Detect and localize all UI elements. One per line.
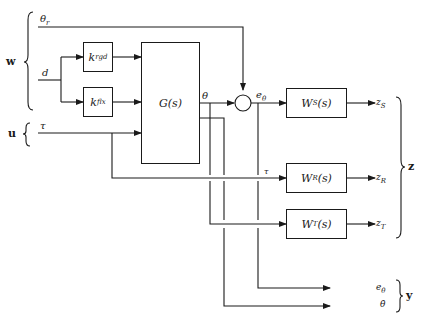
group-label-z: z bbox=[408, 162, 414, 172]
summing-junction bbox=[235, 95, 251, 111]
block-w-t-label: WT(s) bbox=[286, 209, 347, 239]
input-label-tau: τ bbox=[40, 121, 46, 131]
block-k-flx-label: kflx bbox=[83, 87, 113, 117]
u-brace bbox=[23, 123, 30, 146]
diagram-wiring bbox=[0, 0, 421, 329]
block-g-label: G(s) bbox=[141, 42, 200, 164]
input-label-theta-r: θr bbox=[40, 14, 49, 28]
output-label-theta-dot: θ̇ bbox=[380, 299, 385, 309]
group-label-y: y bbox=[406, 291, 412, 301]
y-brace bbox=[396, 280, 403, 312]
output-label-z-s: zS bbox=[376, 97, 386, 111]
block-w-r-label: WR(s) bbox=[286, 163, 347, 193]
group-label-u: u bbox=[8, 129, 16, 139]
output-label-e-theta: eθ bbox=[376, 282, 386, 296]
signal-label-theta: θ bbox=[202, 91, 208, 101]
w-brace bbox=[24, 12, 33, 110]
signal-label-tau-branch: τ bbox=[264, 167, 268, 177]
input-label-d: d bbox=[42, 68, 48, 78]
group-label-w: w bbox=[6, 57, 15, 67]
z-brace bbox=[396, 97, 405, 238]
block-w-s-label: WS(s) bbox=[286, 88, 347, 118]
block-k-rgd-label: krgd bbox=[83, 42, 113, 72]
signal-label-e-theta: eθ bbox=[256, 90, 266, 104]
theta-dot-line bbox=[200, 118, 224, 175]
output-label-z-t: zT bbox=[376, 218, 385, 232]
output-label-z-r: zR bbox=[376, 172, 386, 186]
